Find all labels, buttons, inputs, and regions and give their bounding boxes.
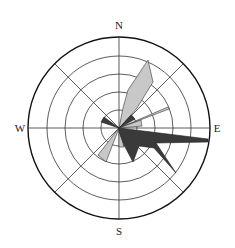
label-north: N	[115, 19, 123, 31]
petal-sw-light	[98, 128, 119, 162]
petal-e-se-dark	[119, 128, 208, 173]
petal-nne-light	[119, 60, 153, 128]
label-east: E	[214, 122, 221, 134]
label-south: S	[116, 225, 122, 237]
label-west: W	[15, 122, 26, 134]
wind-rose-diagram: N E S W	[0, 0, 235, 248]
